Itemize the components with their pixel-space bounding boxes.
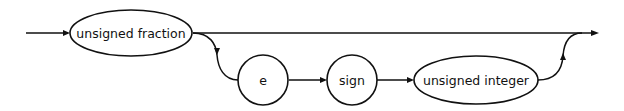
e-to-sign-connector [289,77,327,83]
node-e: e [238,55,288,105]
node-label: sign [339,73,365,88]
arrow-icon [407,77,414,83]
node-unsigned-fraction: unsigned fraction [70,10,192,56]
arrow-icon [63,30,70,36]
arrow-icon [560,53,566,60]
integer-to-exit-connector [538,33,582,80]
node-label: e [259,73,267,88]
node-sign: sign [327,55,377,105]
sign-to-integer-connector [377,77,414,83]
node-unsigned-integer: unsigned integer [414,56,538,104]
arrow-icon [214,48,220,55]
node-label: unsigned fraction [76,26,185,41]
entry-connector [26,30,70,36]
node-label: unsigned integer [423,73,530,88]
arrow-icon [320,77,327,83]
syntax-diagram: unsigned fraction e sign unsigned intege… [0,0,624,111]
exponent-branch-connector [193,33,238,80]
arrow-icon [591,30,599,36]
bypass-connector [193,30,599,36]
